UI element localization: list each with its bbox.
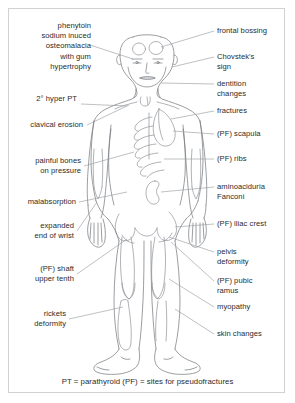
label-phenytoin: phenytoin sodium inuced osteomalacia wit… [13,21,91,72]
label-pelvis-deformity: pelvis deformity [217,247,283,267]
torso-group [91,121,203,219]
label-clavical-erosion: clavical erosion [11,120,83,130]
pubic-ramus-left [122,235,134,243]
figure-caption: PT = parathyroid (PF) = sites for pseudo… [9,377,285,386]
pubic-symphysis [135,228,157,236]
rib-1 [135,117,152,131]
label-pf-pubic-ramus: (PF) pubic ramus [217,276,283,296]
label-chovsteks-sign: Chovstek's sign [217,52,283,72]
ilium-left [115,214,135,241]
thyroid-outline [140,97,150,106]
foot-right [155,349,201,374]
tibia-right [156,301,158,341]
leader-myopathy [169,279,214,307]
leader-hyper-pt [81,104,127,106]
label-pf-shaft: (PF) shaft upper tenth [11,264,74,284]
label-myopathy: myopathy [217,302,283,312]
head-group [117,35,178,98]
label-fractures: fractures [217,106,283,116]
leader-skin-changes [175,309,214,334]
foot-left [94,349,140,374]
femur-right [152,237,166,299]
arm-group [87,121,207,247]
ilium-right [157,212,177,241]
kidney [146,181,159,204]
leader-lines [69,31,214,334]
ulna-right [191,149,192,187]
organ-group [146,181,159,204]
leader-pubic-ramus [171,242,214,281]
label-pf-ribs: (PF) ribs [217,154,283,164]
clavicle-right [157,102,179,109]
leader-aminoaciduria [161,187,214,192]
ulna-left [102,149,103,187]
label-painful-bones: painful bones on pressure [11,156,81,176]
leader-chovsteks [172,57,214,67]
radius-right [200,149,201,187]
knee-right [152,283,165,299]
rib-2 [134,126,153,140]
leader-pf-scapula [173,131,214,134]
frontal-bossing-right [149,42,163,55]
label-frontal-bossing: frontal bossing [217,26,285,36]
label-dentition-changes: dentition changes [217,79,283,99]
leader-malabsorption [79,192,127,202]
leader-pf-shaft [77,239,127,274]
leg-group [94,237,200,374]
leader-dentition [161,83,214,84]
label-hyper-pt: 2° hyper PT [13,94,77,104]
label-rickets-deformity: rickets deformity [11,309,66,329]
leader-phenytoin [90,45,133,59]
leader-frontal-bossing [161,31,214,47]
label-skin-changes: skin changes [217,329,285,339]
label-expanded-wrist: expanded end of wrist [11,221,74,241]
label-pf-iliac-crest: (PF) iliac crest [217,219,285,229]
scapula [153,109,175,146]
leader-fractures [171,111,214,119]
leader-iliac-crest [175,224,214,227]
label-aminoaciduria-fanconi: aminoaciduria Fanconi [217,182,285,202]
frontal-bossing-left [133,43,146,55]
radius-left [93,149,94,187]
tibia-left-bowed [118,301,131,350]
rib-3 [134,135,154,149]
rib-cage-group [134,109,175,178]
pelvis-group [108,212,186,243]
rib-7 [147,170,164,178]
label-pf-scapula: (PF) scapula [217,129,285,139]
label-malabsorption: malabsorption [11,197,76,207]
figure-frame: phenytoin sodium inuced osteomalacia wit… [8,8,285,393]
